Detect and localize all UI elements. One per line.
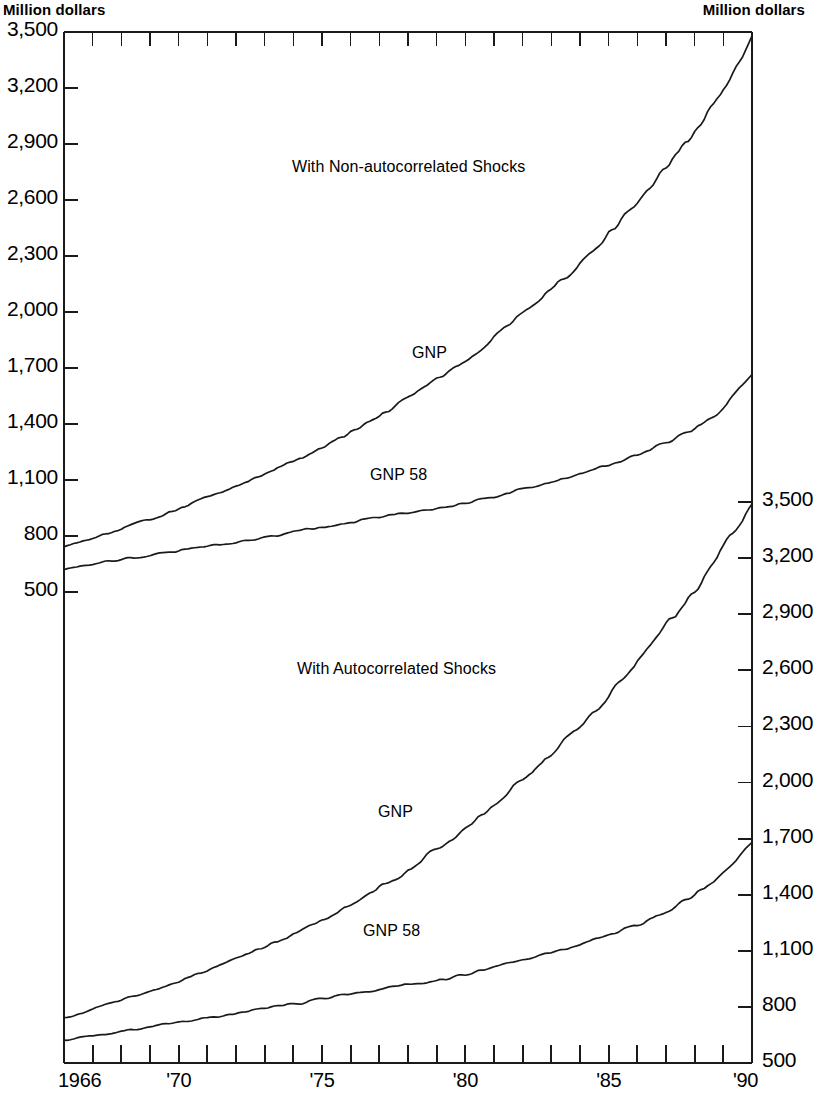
lower-gnp58-series-label: GNP 58	[363, 922, 420, 940]
right-axis-tick-label: 2,300	[762, 711, 813, 735]
x-axis-tick-label: '90	[733, 1069, 758, 1092]
x-axis-tick-label: '70	[166, 1069, 191, 1092]
left-axis-tick-label: 2,300	[0, 241, 58, 265]
lower-gnp-series-label: GNP	[378, 803, 413, 821]
x-axis-tick-label: '80	[453, 1069, 478, 1092]
lower-gnp58-line	[64, 842, 752, 1040]
lower-panel-label: With Autocorrelated Shocks	[297, 660, 496, 678]
right-axis-tick-label: 2,000	[762, 768, 813, 792]
left-axis-tick-label: 1,400	[0, 409, 58, 433]
right-axis-tick-label: 3,200	[762, 543, 813, 567]
left-axis-tick-label: 1,100	[0, 465, 58, 489]
series-lines-group	[64, 36, 752, 1041]
right-axis-tick-label: 2,600	[762, 655, 813, 679]
left-axis-tick-label: 1,700	[0, 353, 58, 377]
x-axis-tick-label: 1966	[58, 1069, 101, 1092]
upper-panel-label: With Non-autocorrelated Shocks	[292, 158, 525, 176]
upper-gnp58-series-label: GNP 58	[370, 466, 427, 484]
right-axis-tick-label: 500	[762, 1048, 796, 1072]
left-axis-tick-label: 3,500	[0, 17, 58, 41]
right-axis-tick-label: 2,900	[762, 599, 813, 623]
left-axis-tick-label: 800	[0, 521, 58, 545]
left-axis-tick-label: 2,900	[0, 129, 58, 153]
left-axis-tick-label: 2,000	[0, 297, 58, 321]
lower-gnp-line	[64, 504, 752, 1018]
upper-gnp-series-label: GNP	[412, 344, 447, 362]
right-axis-tick-label: 1,700	[762, 824, 813, 848]
x-axis-tick-label: '75	[310, 1069, 335, 1092]
axes-group	[64, 32, 752, 1063]
right-axis-tick-label: 1,100	[762, 936, 813, 960]
right-axis-tick-label: 1,400	[762, 880, 813, 904]
right-axis-tick-label: 3,500	[762, 487, 813, 511]
left-axis-tick-label: 3,200	[0, 73, 58, 97]
left-axis-tick-label: 500	[0, 577, 58, 601]
left-axis-tick-label: 2,600	[0, 185, 58, 209]
right-axis-tick-label: 800	[762, 992, 796, 1016]
x-axis-tick-label: '85	[596, 1069, 621, 1092]
